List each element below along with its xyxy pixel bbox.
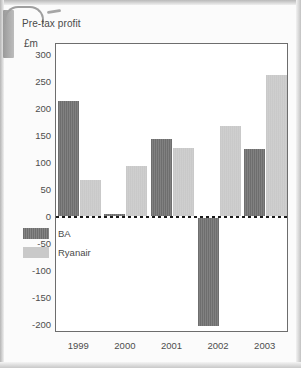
- bar-ba-2001: [151, 139, 172, 217]
- bar-ryanair-2000: [126, 166, 147, 217]
- y-axis-tick-label: 50: [3, 183, 51, 194]
- legend-label-ba: BA: [58, 228, 71, 239]
- chart-title: Pre-tax profit: [22, 18, 81, 29]
- legend-swatch-ba: [23, 228, 49, 239]
- bar-ba-2003: [244, 149, 265, 217]
- y-axis-tick-label: -200: [3, 318, 51, 329]
- page-edge-right: [296, 0, 301, 368]
- y-axis-tick-label: 300: [3, 48, 51, 59]
- legend-swatch-ryanair: [23, 247, 49, 258]
- y-axis-tick-label: -150: [3, 291, 51, 302]
- y-axis-tick-labels: 300250200150100500-50-100-150-200: [0, 43, 51, 332]
- bar-ba-1999: [58, 101, 79, 217]
- x-axis-tick-label: 2003: [254, 340, 275, 351]
- chart-legend: BARyanair: [23, 228, 91, 266]
- x-axis-tick-label: 1999: [68, 340, 89, 351]
- plot-area: [55, 43, 288, 332]
- bar-ryanair-2002: [220, 126, 241, 217]
- page-edge-bottom: [0, 362, 301, 368]
- x-axis-tick-label: 2002: [208, 340, 229, 351]
- plot-inner: [56, 44, 287, 331]
- y-axis-tick-label: -100: [3, 264, 51, 275]
- bar-ryanair-1999: [80, 180, 101, 217]
- y-axis-tick-label: 250: [3, 75, 51, 86]
- page-edge-top: [0, 0, 301, 5]
- zero-baseline: [56, 216, 287, 218]
- scanned-page: Pre-tax profit £m 300250200150100500-50-…: [0, 0, 301, 368]
- x-axis-tick-label: 2000: [114, 340, 135, 351]
- y-axis-tick-label: 150: [3, 129, 51, 140]
- bar-ba-2002: [198, 217, 219, 326]
- y-axis-tick-label: 0: [3, 210, 51, 221]
- x-axis-tick-label: 2001: [161, 340, 182, 351]
- legend-item-ba: BA: [23, 228, 91, 239]
- y-axis-tick-label: 200: [3, 102, 51, 113]
- bar-ryanair-2003: [266, 75, 287, 217]
- x-axis-tick-labels: 19992000200120022003: [55, 340, 288, 356]
- y-axis-tick-label: 100: [3, 156, 51, 167]
- bar-ryanair-2001: [173, 148, 194, 217]
- legend-item-ryanair: Ryanair: [23, 247, 91, 258]
- legend-label-ryanair: Ryanair: [58, 247, 91, 258]
